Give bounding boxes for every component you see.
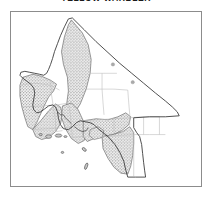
map-frame (10, 11, 202, 187)
record-point-1 (111, 63, 114, 66)
island-san-clemente (84, 163, 89, 170)
distribution-map (11, 12, 201, 186)
island-santa-catalina (82, 147, 87, 152)
island-san-miguel (39, 134, 42, 136)
island-anacapa (64, 136, 67, 138)
island-santa-barbara (61, 151, 64, 153)
record-point-2 (131, 81, 134, 84)
island-santa-rosa (46, 135, 52, 139)
island-santa-cruz (55, 134, 62, 137)
figure-container: YELLOW WARBLER (0, 0, 212, 197)
distribution-area-north-coast-range (61, 20, 91, 117)
figure-title: YELLOW WARBLER (0, 0, 212, 3)
